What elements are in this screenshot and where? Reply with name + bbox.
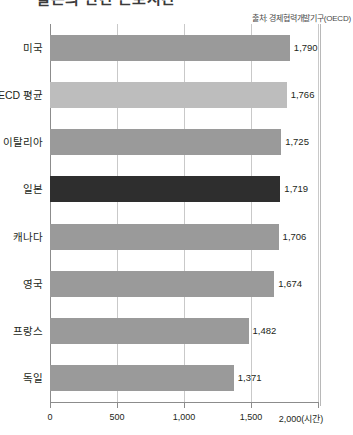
bar-value-label: 1,725 bbox=[285, 137, 309, 147]
plot-area bbox=[50, 24, 318, 402]
category-label: 독일 bbox=[23, 373, 43, 384]
bar bbox=[50, 35, 290, 61]
y-axis-line bbox=[50, 24, 51, 402]
bar-value-label: 1,674 bbox=[278, 279, 302, 289]
bar bbox=[50, 318, 249, 344]
gridline bbox=[184, 24, 185, 402]
x-axis-tick bbox=[50, 402, 51, 408]
source-note: 출처: 경제협력개발기구(OECD) bbox=[252, 12, 351, 23]
chart-title-text: 일본의 연간 근로시간 bbox=[36, 0, 176, 7]
bar-value-label: 1,706 bbox=[283, 232, 307, 242]
bar-value-label: 1,482 bbox=[253, 326, 277, 336]
x-axis-tick-label: 500 bbox=[109, 412, 124, 422]
category-label: 캐나다 bbox=[13, 232, 43, 243]
gridline bbox=[251, 24, 252, 402]
bar bbox=[50, 224, 279, 250]
bar-value-label: 1,766 bbox=[291, 90, 315, 100]
x-axis-tick bbox=[117, 402, 118, 408]
x-axis-tick bbox=[318, 402, 319, 408]
gridline bbox=[318, 24, 319, 402]
x-axis-tick-label: 1,000 bbox=[173, 412, 196, 422]
bar-chart: 05001,0001,5002,000(시간)미국1,790OECD 평균1,7… bbox=[0, 24, 353, 435]
x-axis-tick-label: 1,500 bbox=[240, 412, 263, 422]
x-axis-tick bbox=[251, 402, 252, 408]
category-label: 일본 bbox=[23, 184, 43, 195]
bar bbox=[50, 365, 234, 391]
category-label: 미국 bbox=[23, 43, 43, 54]
x-axis-tick bbox=[184, 402, 185, 408]
frame-right-rule bbox=[320, 24, 321, 406]
bar-highlighted bbox=[50, 176, 280, 202]
category-label: OECD 평균 bbox=[0, 90, 43, 101]
bar bbox=[50, 129, 281, 155]
x-axis-tick-label: 2,000(시간) bbox=[279, 412, 324, 425]
chart-title-clipped: 일본의 연간 근로시간 bbox=[0, 0, 353, 7]
category-label: 영국 bbox=[23, 279, 43, 290]
bar-value-label: 1,719 bbox=[284, 184, 308, 194]
bar bbox=[50, 271, 274, 297]
bar-value-label: 1,790 bbox=[294, 43, 318, 53]
category-label: 프랑스 bbox=[13, 326, 43, 337]
x-axis-tick-label: 0 bbox=[47, 412, 52, 422]
category-label: 이탈리아 bbox=[3, 137, 43, 148]
gridline bbox=[117, 24, 118, 402]
bar-value-label: 1,371 bbox=[238, 373, 262, 383]
bar bbox=[50, 82, 287, 108]
